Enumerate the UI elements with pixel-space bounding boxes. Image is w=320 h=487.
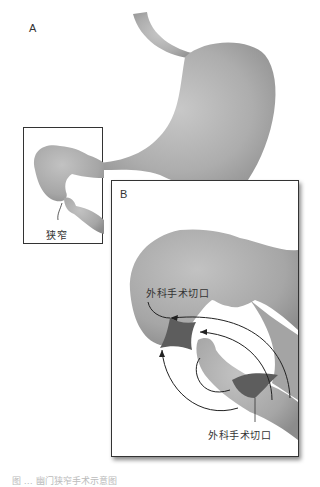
- incision-label-top: 外科手术切口: [146, 285, 209, 300]
- figure-caption-cropped: 图 … 幽门狭窄手术示意图: [12, 474, 117, 487]
- panel-b-label: B: [120, 188, 127, 200]
- incision-label-bottom: 外科手术切口: [208, 427, 271, 442]
